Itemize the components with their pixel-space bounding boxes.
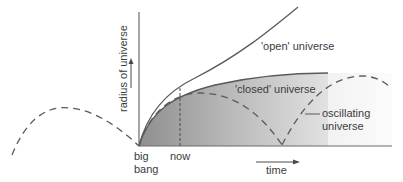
y-axis-label: radius of universe — [117, 22, 131, 112]
now-label: now — [170, 150, 190, 162]
open-universe-label: 'open' universe — [261, 40, 334, 52]
oscillating-universe-curve-past — [12, 108, 139, 155]
oscillating-universe-label-line1: oscillating — [322, 107, 370, 119]
cosmology-diagram — [0, 0, 403, 182]
closed-universe-label: 'closed' universe — [235, 83, 316, 95]
oscillating-universe-label-line2: universe — [322, 120, 364, 132]
time-label: time — [266, 164, 287, 176]
big-bang-label-line1: big — [134, 150, 149, 162]
big-bang-label-line2: bang — [134, 163, 158, 175]
time-arrow-head — [293, 160, 300, 165]
